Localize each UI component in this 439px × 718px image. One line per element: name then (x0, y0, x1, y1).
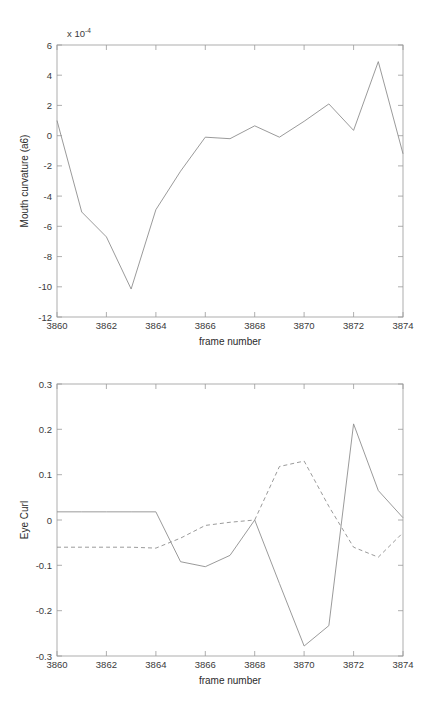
svg-text:3866: 3866 (195, 659, 216, 670)
y-tick-labels: 6 4 2 0 -2 -4 -6 -8 -10 -12 (38, 40, 52, 323)
svg-text:-10: -10 (38, 281, 52, 292)
y-tick-marks-right (398, 384, 403, 656)
y-axis-label: Mouth curvature (a6) (19, 135, 30, 228)
svg-text:3864: 3864 (145, 320, 166, 331)
svg-text:3866: 3866 (195, 320, 216, 331)
x-tick-marks (57, 312, 403, 317)
x-tick-marks-top (57, 45, 403, 50)
data-line-eye-curl-dashed (57, 461, 403, 557)
svg-text:3874: 3874 (392, 320, 413, 331)
svg-text:3860: 3860 (46, 659, 67, 670)
svg-text:0: 0 (47, 515, 52, 526)
data-line-mouth-curvature (57, 62, 403, 289)
svg-text:3870: 3870 (294, 320, 315, 331)
x-tick-marks (57, 651, 403, 656)
y-tick-marks (57, 384, 62, 656)
y-exponent-label: x 10-4 (67, 27, 91, 39)
svg-text:6: 6 (47, 40, 52, 51)
svg-text:0.1: 0.1 (39, 469, 52, 480)
x-tick-marks-top (57, 384, 403, 389)
svg-text:-8: -8 (44, 251, 52, 262)
svg-text:2: 2 (47, 100, 52, 111)
svg-text:3860: 3860 (46, 320, 67, 331)
svg-text:0.2: 0.2 (39, 424, 52, 435)
plot-frame (57, 384, 403, 656)
svg-text:3874: 3874 (392, 659, 413, 670)
svg-text:-6: -6 (44, 221, 52, 232)
mouth-curvature-svg: x 10-4 (0, 0, 439, 370)
svg-text:3870: 3870 (294, 659, 315, 670)
chart-mouth-curvature: x 10-4 (0, 0, 439, 370)
x-axis-label: frame number (199, 336, 262, 347)
y-axis-label: Eye Curl (19, 501, 30, 539)
svg-text:0: 0 (47, 130, 52, 141)
x-tick-labels: 3860 3862 3864 3866 3868 3870 3872 3874 (46, 320, 413, 331)
svg-text:-0.2: -0.2 (36, 605, 52, 616)
plot-frame (57, 45, 403, 317)
svg-text:3872: 3872 (343, 320, 364, 331)
svg-text:-0.1: -0.1 (36, 560, 52, 571)
svg-text:3862: 3862 (96, 320, 117, 331)
svg-text:3872: 3872 (343, 659, 364, 670)
x-axis-label: frame number (199, 675, 262, 686)
y-tick-marks (57, 45, 62, 317)
y-tick-marks-right (398, 45, 403, 317)
svg-text:3862: 3862 (96, 659, 117, 670)
data-line-eye-curl-solid (57, 424, 403, 646)
chart-eye-curl: 0.3 0.2 0.1 0 -0.1 -0.2 -0.3 (0, 360, 439, 718)
y-tick-labels: 0.3 0.2 0.1 0 -0.1 -0.2 -0.3 (36, 379, 52, 662)
svg-text:3864: 3864 (145, 659, 166, 670)
svg-text:3868: 3868 (244, 659, 265, 670)
svg-text:3868: 3868 (244, 320, 265, 331)
svg-text:4: 4 (47, 70, 52, 81)
svg-text:-4: -4 (44, 191, 52, 202)
figure-canvas: x 10-4 (0, 0, 439, 718)
svg-text:-2: -2 (44, 160, 52, 171)
eye-curl-svg: 0.3 0.2 0.1 0 -0.1 -0.2 -0.3 (0, 360, 439, 718)
svg-text:0.3: 0.3 (39, 379, 52, 390)
x-tick-labels: 3860 3862 3864 3866 3868 3870 3872 3874 (46, 659, 413, 670)
